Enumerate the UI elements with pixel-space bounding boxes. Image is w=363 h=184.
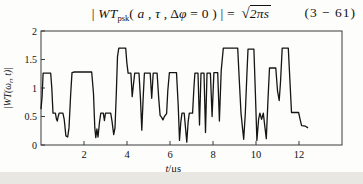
wavelet-magnitude-chart: 2468101200.511.52t/μs|WT(ωr, t)| (0, 26, 363, 184)
y-tick-label: 0.5 (25, 111, 38, 122)
x-tick-label: 12 (294, 149, 305, 160)
open-paren: ( (129, 6, 137, 21)
wt-subscript: psk (117, 13, 129, 23)
x-tick-label: 8 (210, 149, 215, 160)
radical-sign: √ (241, 5, 249, 21)
wt-symbol: WT (98, 6, 117, 21)
equation-row: | WTpsk( a , τ , Δφ = 0 ) | = √2πs (3 − … (0, 2, 363, 26)
y-tick-label: 1.5 (25, 54, 38, 65)
comma-1: , (144, 6, 155, 21)
equals-zero: = 0 ) | = (187, 6, 239, 21)
signal-trace (41, 48, 308, 142)
x-tick-label: 2 (81, 149, 86, 160)
equation-number: (3 − 61) (304, 5, 356, 21)
equation: | WTpsk( a , τ , Δφ = 0 ) | = √2πs (92, 5, 271, 23)
x-tick-label: 4 (124, 149, 130, 160)
x-tick-label: 10 (251, 149, 262, 160)
y-tick-label: 2 (32, 26, 37, 37)
phi-symbol: φ (179, 6, 187, 21)
x-tick-label: 6 (167, 149, 172, 160)
y-axis-title: |WT(ωr, t)| (3, 67, 15, 109)
page-scan-edge (0, 172, 363, 184)
plot-frame (41, 31, 342, 145)
square-root: √2πs (241, 6, 271, 21)
comma-2: , (160, 6, 170, 21)
y-tick-label: 1 (32, 83, 37, 94)
y-tick-label: 0 (32, 140, 37, 151)
figure-page: | WTpsk( a , τ , Δφ = 0 ) | = √2πs (3 − … (0, 0, 363, 184)
delta-symbol: Δ (170, 6, 179, 21)
radicand: 2πs (250, 5, 271, 21)
